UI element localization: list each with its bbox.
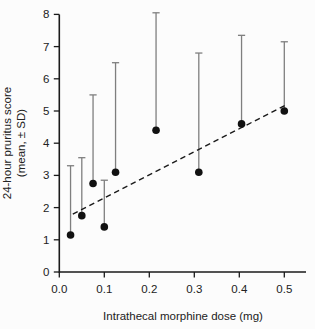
y-tick-label: 0 bbox=[43, 266, 49, 278]
y-tick-label: 3 bbox=[43, 169, 49, 181]
y-axis-title-line2: (mean, ± SD) bbox=[15, 109, 27, 177]
x-tick-label: 0.0 bbox=[51, 283, 67, 295]
y-tick-label: 2 bbox=[43, 202, 49, 214]
x-tick-label: 0.4 bbox=[231, 283, 248, 295]
pruritus-dose-figure: 0.00.10.20.30.40.5012345678 Intrathecal … bbox=[0, 0, 315, 329]
tick-labels-group: 0.00.10.20.30.40.5012345678 bbox=[43, 8, 292, 295]
y-axis-title-line1: 24-hour pruritus score bbox=[1, 87, 13, 200]
x-tick-label: 0.5 bbox=[276, 283, 292, 295]
y-tick-label: 4 bbox=[43, 137, 50, 149]
data-point bbox=[195, 168, 203, 176]
y-tick-label: 7 bbox=[43, 41, 49, 53]
data-points-group bbox=[67, 107, 288, 239]
y-tick-label: 8 bbox=[43, 8, 49, 20]
data-point bbox=[281, 107, 289, 115]
y-tick-label: 1 bbox=[43, 234, 49, 246]
data-point bbox=[78, 212, 86, 220]
data-point bbox=[112, 168, 120, 176]
y-tick-label: 5 bbox=[43, 105, 49, 117]
data-point bbox=[152, 127, 160, 135]
data-point bbox=[67, 231, 75, 239]
pruritus-dose-chart: 0.00.10.20.30.40.5012345678 Intrathecal … bbox=[0, 0, 315, 329]
axes-group bbox=[54, 14, 306, 277]
x-tick-label: 0.3 bbox=[186, 283, 202, 295]
y-tick-label: 6 bbox=[43, 73, 49, 85]
x-tick-label: 0.1 bbox=[96, 283, 112, 295]
x-tick-label: 0.2 bbox=[141, 283, 157, 295]
data-point bbox=[89, 180, 97, 188]
x-axis-title: Intrathecal morphine dose (mg) bbox=[103, 310, 263, 322]
error-bars-group bbox=[67, 13, 288, 235]
data-point bbox=[101, 223, 109, 231]
data-point bbox=[238, 120, 246, 128]
